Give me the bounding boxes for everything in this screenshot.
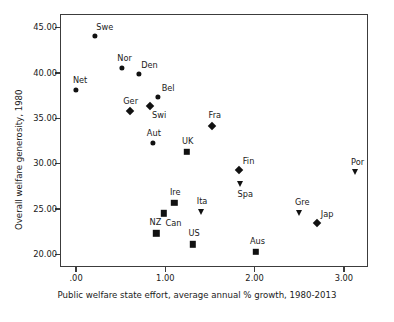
data-point-label-us: US xyxy=(188,229,199,237)
data-point-label-fin: Fin xyxy=(243,157,255,165)
data-point-label-nor: Nor xyxy=(117,53,132,61)
data-point-label-uk: UK xyxy=(182,137,193,145)
data-point-label-swe: Swe xyxy=(96,23,113,31)
data-point-label-gre: Gre xyxy=(295,198,310,206)
y-tick-label: 25.00 xyxy=(33,205,57,213)
data-point-label-swi: Swi xyxy=(152,111,166,119)
data-point-marker-gre xyxy=(296,210,302,216)
scatter-plot-figure: 45.0040.0035.0030.0025.0020.00 .001.002.… xyxy=(0,0,394,322)
plot-area-frame xyxy=(60,14,368,267)
data-point-label-ger: Ger xyxy=(123,97,138,105)
data-point-marker-por xyxy=(352,169,358,175)
y-tick-label: 30.00 xyxy=(33,159,57,167)
data-point-marker-ita xyxy=(198,209,204,215)
data-point-label-can: Can xyxy=(166,219,182,227)
data-point-label-bel: Bel xyxy=(162,83,175,91)
x-tick-label: 1.00 xyxy=(156,274,174,282)
data-point-label-jap: Jap xyxy=(321,210,334,218)
data-point-label-den: Den xyxy=(141,61,158,69)
data-point-marker-us xyxy=(190,241,196,247)
x-axis-title: Public welfare state effort, average ann… xyxy=(0,290,394,300)
x-tick-mark xyxy=(254,267,255,272)
data-point-label-ita: Ita xyxy=(197,197,208,205)
x-tick-mark xyxy=(343,267,344,272)
x-tick-label: 3.00 xyxy=(335,274,353,282)
x-tick-label: 2.00 xyxy=(245,274,263,282)
data-point-marker-ire xyxy=(171,199,177,205)
x-tick-mark xyxy=(165,267,166,272)
y-tick-label: 20.00 xyxy=(33,250,57,258)
data-point-label-fra: Fra xyxy=(209,111,222,119)
data-point-marker-nz xyxy=(153,230,159,236)
data-point-marker-can xyxy=(160,210,166,216)
data-point-label-net: Net xyxy=(73,76,87,84)
x-tick-mark xyxy=(75,267,76,272)
data-point-label-spa: Spa xyxy=(238,189,253,197)
y-tick-label: 35.00 xyxy=(33,114,57,122)
data-point-marker-spa xyxy=(237,181,243,187)
data-point-label-aut: Aut xyxy=(147,129,161,137)
y-axis-title: Overall welfare generosity, 1980 xyxy=(14,89,24,230)
data-point-marker-aus xyxy=(252,248,258,254)
data-point-label-por: Por xyxy=(351,158,364,166)
y-tick-label: 45.00 xyxy=(33,23,57,31)
data-point-label-aus: Aus xyxy=(250,236,265,244)
y-tick-label: 40.00 xyxy=(33,69,57,77)
x-tick-label: .00 xyxy=(69,274,82,282)
data-point-marker-uk xyxy=(184,149,190,155)
data-point-label-nz: NZ xyxy=(150,218,162,226)
data-point-label-ire: Ire xyxy=(170,188,181,196)
